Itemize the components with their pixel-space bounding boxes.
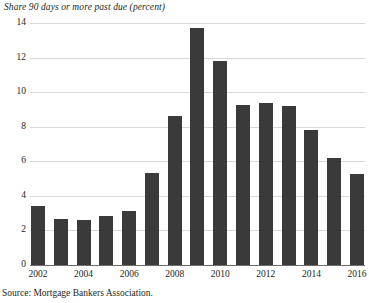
bar — [282, 106, 296, 265]
bar — [236, 105, 250, 265]
x-axis-tick-label: 2016 — [348, 270, 367, 280]
chart-title: Share 90 days or more past due (percent) — [4, 2, 165, 12]
bar — [145, 173, 159, 265]
bar — [99, 216, 113, 265]
plot-area — [30, 23, 365, 265]
y-axis-tick-label: 0 — [21, 260, 26, 270]
bar — [213, 61, 227, 265]
bar — [350, 174, 364, 265]
x-axis-tick-label: 2004 — [74, 270, 93, 280]
bar-series — [30, 23, 365, 265]
bar — [190, 28, 204, 265]
bar — [304, 130, 318, 265]
bar — [54, 219, 68, 265]
bar — [77, 220, 91, 265]
bar — [122, 211, 136, 265]
source-note: Source: Mortgage Bankers Association. — [2, 288, 153, 298]
y-axis: 02468101214 — [0, 23, 26, 265]
y-axis-tick-label: 8 — [21, 122, 26, 132]
x-axis-tick-label: 2010 — [211, 270, 230, 280]
x-axis-tick-label: 2002 — [29, 270, 48, 280]
bar — [31, 206, 45, 265]
y-axis-tick-label: 14 — [17, 18, 27, 28]
y-axis-tick-label: 4 — [21, 191, 26, 201]
x-axis: 20022004200620082010201220142016 — [30, 270, 365, 284]
bar — [327, 158, 341, 265]
y-axis-tick-label: 2 — [21, 226, 26, 236]
bar-chart-figure: Share 90 days or more past due (percent)… — [0, 0, 369, 303]
x-axis-tick-label: 2014 — [302, 270, 321, 280]
axis-baseline — [30, 265, 365, 266]
y-axis-tick-label: 10 — [17, 87, 27, 97]
y-axis-tick-label: 6 — [21, 157, 26, 167]
bar — [168, 116, 182, 265]
x-axis-tick-label: 2006 — [120, 270, 139, 280]
x-axis-tick-label: 2012 — [256, 270, 275, 280]
bar — [259, 103, 273, 265]
x-axis-tick-label: 2008 — [165, 270, 184, 280]
y-axis-tick-label: 12 — [17, 53, 27, 63]
